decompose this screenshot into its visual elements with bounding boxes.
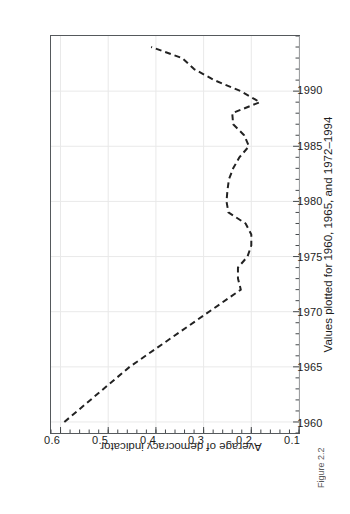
x-tick-label-1975: 1975	[297, 251, 322, 263]
rotated-chart-stage: 1960196519701975198019851990 0.60.50.40.…	[20, 22, 330, 492]
x-tick-label-1990: 1990	[297, 84, 322, 96]
figure-root: 1960196519701975198019851990 0.60.50.40.…	[0, 0, 350, 514]
x-axis-title: Values plotted for 1960, 1965, and 1972–…	[322, 35, 334, 434]
x-tick-label-1980: 1980	[297, 195, 322, 207]
plot-area	[50, 35, 300, 434]
figure-caption: Figure 2.2	[316, 447, 326, 488]
x-tick-label-1960: 1960	[297, 417, 322, 429]
x-tick-label-1985: 1985	[297, 140, 322, 152]
y-axis-title: Average of democracy indicator	[56, 441, 306, 453]
axis-ticks	[51, 36, 299, 433]
x-tick-label-1970: 1970	[297, 306, 322, 318]
x-tick-label-1965: 1965	[297, 362, 322, 374]
